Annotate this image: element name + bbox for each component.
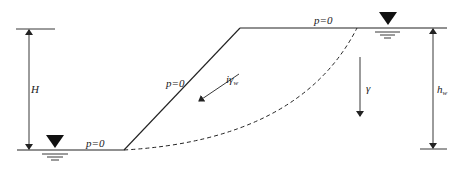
water-level-icon — [42, 135, 68, 160]
pressure-label-crest: p=0 — [314, 15, 332, 26]
phreatic-line-dashed — [124, 28, 357, 150]
gamma-label: γ — [366, 83, 370, 94]
seepage-label-sub: w — [233, 79, 238, 87]
hw-label: hw — [437, 84, 447, 97]
ground-profile — [17, 28, 447, 150]
pressure-label-slope: p=0 — [166, 78, 184, 89]
seepage-force-label: iγw — [226, 74, 238, 87]
slope-seepage-diagram: H hw γ iγw p=0 p=0 p=0 — [0, 0, 460, 171]
water-level-icon — [375, 12, 400, 38]
hw-label-sub: w — [443, 89, 448, 97]
slope-face-line — [124, 28, 240, 150]
pressure-label-toe: p=0 — [86, 138, 104, 149]
H-label: H — [31, 84, 39, 95]
